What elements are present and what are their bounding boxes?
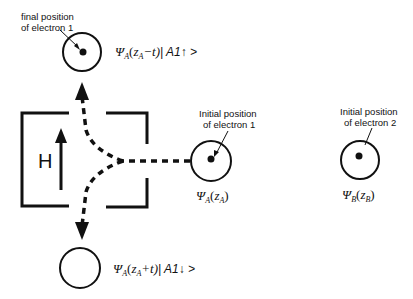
arrow-down-icon [75, 222, 89, 240]
final-position-label: final position of electron 1 [21, 11, 74, 33]
final-position-circle [60, 30, 101, 71]
initial-electron2-label: Initial position of electron 2 [340, 106, 398, 128]
wavefunction-a: ΨA(zA) [196, 188, 229, 205]
electron2-circle [341, 128, 379, 179]
electron1-circle [191, 131, 231, 181]
wavefunction-spin-up: ΨA(zA−t)| A1↑ > [115, 44, 197, 61]
wavefunction-b: ΨB(zB) [342, 187, 375, 204]
spin-down-circle [60, 248, 100, 288]
initial-electron1-label: Initial position of electron 1 [199, 108, 257, 130]
diagram-canvas [0, 0, 413, 299]
field-label: H [38, 150, 52, 173]
wavefunction-spin-down: ΨA(zA+t)| A1↓ > [113, 261, 195, 278]
field-arrow-icon [55, 128, 67, 190]
arrow-up-icon [75, 82, 89, 100]
